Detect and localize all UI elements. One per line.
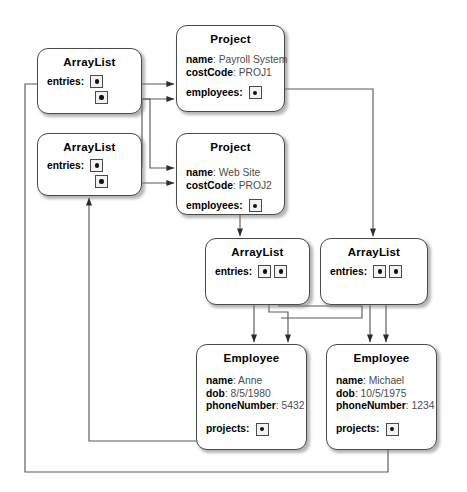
object-employee-anne[interactable]: Employee name: Anne dob: 8/5/1980 phoneN… <box>196 344 307 450</box>
field-entries: entries: <box>38 75 141 88</box>
field-dob: dob: 10/5/1975 <box>336 388 436 401</box>
field-phonenumber: phoneNumber: 1234 <box>336 400 436 413</box>
object-type-label: Employee <box>197 352 306 365</box>
wire-cross-bar <box>278 306 362 318</box>
field-label-entries: entries: <box>47 76 84 88</box>
object-project-website[interactable]: Project name: Web Site costCode: PROJ2 e… <box>176 133 285 215</box>
object-arraylist-projects-michael[interactable]: ArrayList entries: <box>37 48 142 114</box>
field-label-projects: projects: <box>336 423 380 435</box>
object-arraylist-projects-anne[interactable]: ArrayList entries: <box>37 133 142 196</box>
field-projects: projects: <box>327 423 436 436</box>
reference-slot[interactable] <box>274 265 287 278</box>
field-entries-slot2 <box>38 91 141 104</box>
object-type-label: ArrayList <box>38 141 141 154</box>
reference-slot[interactable] <box>95 91 108 104</box>
field-costcode: costCode: PROJ1 <box>186 67 284 80</box>
field-label-employees: employees: <box>186 87 243 99</box>
field-label-entries: entries: <box>47 160 84 172</box>
object-type-label: ArrayList <box>38 56 141 69</box>
field-name: name: Michael <box>336 375 436 388</box>
object-type-label: ArrayList <box>321 246 427 259</box>
object-type-label: Employee <box>327 352 436 365</box>
reference-slot[interactable] <box>249 199 262 212</box>
reference-slot[interactable] <box>258 265 271 278</box>
field-list: name: Web Site costCode: PROJ2 <box>177 167 284 192</box>
object-employee-michael[interactable]: Employee name: Michael dob: 10/5/1975 ph… <box>326 344 437 450</box>
object-project-payroll[interactable]: Project name: Payroll System costCode: P… <box>176 25 285 112</box>
field-entries-slot2 <box>38 175 141 188</box>
field-label-entries: entries: <box>215 266 252 278</box>
field-entries: entries: <box>321 265 427 278</box>
reference-slot[interactable] <box>90 159 103 172</box>
field-entries: entries: <box>206 265 309 278</box>
reference-slot[interactable] <box>256 423 269 436</box>
object-arraylist-employees-website[interactable]: ArrayList entries: <box>205 238 310 305</box>
reference-slot[interactable] <box>389 265 402 278</box>
field-list: name: Anne dob: 8/5/1980 phoneNumber: 54… <box>197 375 306 413</box>
field-name: name: Anne <box>206 375 306 388</box>
field-name: name: Payroll System <box>186 54 284 67</box>
reference-slot[interactable] <box>90 75 103 88</box>
field-costcode: costCode: PROJ2 <box>186 180 284 193</box>
reference-slot[interactable] <box>373 265 386 278</box>
object-arraylist-employees-payroll[interactable]: ArrayList entries: <box>320 238 428 305</box>
field-name: name: Web Site <box>186 167 284 180</box>
field-employees: employees: <box>177 199 284 212</box>
field-phonenumber: phoneNumber: 5432 <box>206 400 306 413</box>
object-type-label: ArrayList <box>206 246 309 259</box>
field-entries: entries: <box>38 159 141 172</box>
reference-slot[interactable] <box>386 423 399 436</box>
object-type-label: Project <box>177 33 284 46</box>
field-list: name: Michael dob: 10/5/1975 phoneNumber… <box>327 375 436 413</box>
field-projects: projects: <box>197 423 306 436</box>
field-label-entries: entries: <box>330 266 367 278</box>
reference-slot[interactable] <box>95 175 108 188</box>
field-label-employees: employees: <box>186 200 243 212</box>
field-list: name: Payroll System costCode: PROJ1 <box>177 54 284 79</box>
field-dob: dob: 8/5/1980 <box>206 388 306 401</box>
field-label-projects: projects: <box>206 423 250 435</box>
reference-slot[interactable] <box>249 86 262 99</box>
object-type-label: Project <box>177 141 284 154</box>
field-employees: employees: <box>177 86 284 99</box>
object-diagram-canvas: ArrayList entries: Project name: Payroll… <box>0 0 467 492</box>
